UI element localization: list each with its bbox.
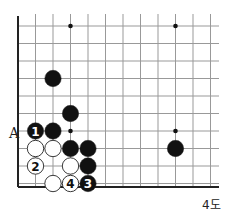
- white-stone: [27, 140, 43, 156]
- black-stone: [45, 70, 61, 86]
- black-stone: [45, 123, 61, 139]
- white-stone: 4: [62, 175, 78, 191]
- black-stone: [80, 140, 96, 156]
- move-number: 3: [84, 177, 92, 191]
- white-stone: 2: [27, 158, 43, 174]
- white-stone: [45, 175, 61, 191]
- star-point: [173, 129, 178, 134]
- white-stone: [45, 140, 61, 156]
- black-stone: 3: [80, 175, 96, 191]
- white-stone: [62, 158, 78, 174]
- move-number: 4: [66, 177, 74, 191]
- move-number: 2: [31, 160, 39, 174]
- go-board-diagram: 1243 A: [0, 0, 233, 215]
- black-stone: [167, 140, 183, 156]
- diagram-caption: 4도: [202, 195, 221, 212]
- board-grid: [18, 14, 219, 187]
- star-point: [68, 24, 73, 29]
- black-stone: [80, 158, 96, 174]
- move-number: 1: [31, 125, 39, 139]
- black-stone: [62, 105, 78, 121]
- black-stone: 1: [27, 123, 43, 139]
- star-point: [68, 129, 73, 134]
- black-stone: [62, 140, 78, 156]
- star-point: [173, 24, 178, 29]
- point-label-a: A: [8, 125, 20, 141]
